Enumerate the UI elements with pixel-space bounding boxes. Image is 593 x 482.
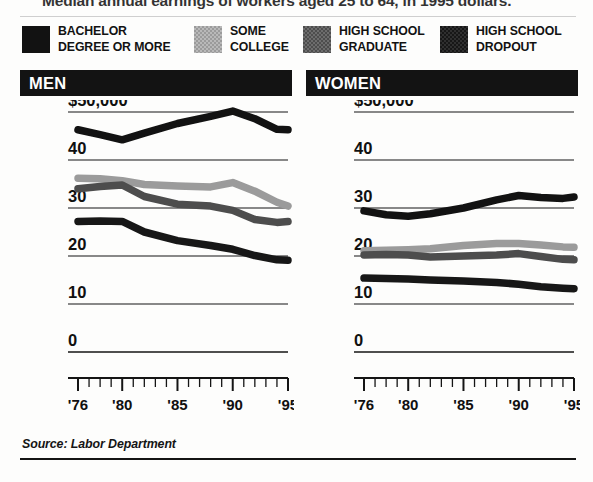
series-line <box>364 254 574 260</box>
y-tick-label: 40 <box>354 139 372 157</box>
y-tick-label: $50,000 <box>354 100 414 109</box>
x-tick-label: '76 <box>68 396 88 410</box>
legend-label: HIGH SCHOOL DROPOUT <box>476 24 562 55</box>
legend-swatch-icon <box>440 26 468 53</box>
x-tick-label: '85 <box>453 396 473 410</box>
x-tick-label: '90 <box>223 396 243 410</box>
y-tick-label: 10 <box>354 283 372 301</box>
y-tick-label: 0 <box>354 331 363 349</box>
y-tick-label: 30 <box>354 187 372 205</box>
page-title: Median annual earnings of workers aged 2… <box>0 0 593 11</box>
legend-item: HIGH SCHOOL DROPOUT <box>440 24 593 60</box>
x-tick-label: '90 <box>509 396 529 410</box>
chart-plot-women: $50,000403020100'76'80'85'90'95 <box>306 100 580 410</box>
panel-women-title: WOMEN <box>315 74 381 93</box>
headline-clip: Median annual earnings of workers aged 2… <box>0 0 593 11</box>
y-tick-label: 0 <box>68 331 77 349</box>
legend-swatch-icon <box>194 26 222 53</box>
legend-item: BACHELOR DEGREE OR MORE <box>22 24 218 60</box>
y-tick-label: 10 <box>68 283 86 301</box>
series-line <box>364 244 574 251</box>
panel-women: WOMEN $50,000403020100'76'80'85'90'95 <box>306 70 580 410</box>
legend-label: BACHELOR DEGREE OR MORE <box>58 24 171 55</box>
x-tick-label: '95 <box>564 396 580 410</box>
x-tick-label: '80 <box>112 396 132 410</box>
y-tick-label: 20 <box>68 235 86 253</box>
chart-legend: BACHELOR DEGREE OR MORESOME COLLEGEHIGH … <box>22 24 582 62</box>
bottom-divider <box>20 458 576 460</box>
infographic-root: Median annual earnings of workers aged 2… <box>0 0 593 482</box>
legend-label: HIGH SCHOOL GRADUATE <box>339 24 425 55</box>
panel-women-header: WOMEN <box>306 70 578 96</box>
panel-men: MEN $50,000403020100'76'80'85'90'95 <box>20 70 294 410</box>
series-line <box>78 111 288 140</box>
series-line <box>364 196 574 217</box>
x-tick-label: '95 <box>278 396 294 410</box>
top-divider <box>20 16 576 17</box>
source-note: Source: Labor Department <box>22 437 176 451</box>
panel-men-header: MEN <box>20 70 292 96</box>
x-tick-label: '76 <box>354 396 374 410</box>
x-tick-label: '85 <box>167 396 187 410</box>
chart-plot-men: $50,000403020100'76'80'85'90'95 <box>20 100 294 410</box>
y-tick-label: $50,000 <box>68 100 128 109</box>
series-line <box>364 278 574 289</box>
legend-label: SOME COLLEGE <box>230 24 289 55</box>
x-tick-label: '80 <box>398 396 418 410</box>
legend-swatch-icon <box>303 26 331 53</box>
panel-men-title: MEN <box>29 74 66 93</box>
legend-swatch-icon <box>22 26 50 53</box>
y-tick-label: 40 <box>68 139 86 157</box>
series-line <box>78 221 288 260</box>
